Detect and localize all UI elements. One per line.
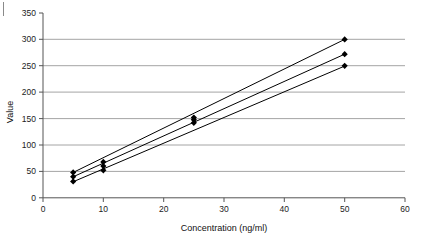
trendline-upper	[73, 39, 345, 172]
x-tick-label-40: 40	[280, 204, 290, 214]
y-tick-label-50: 50	[27, 166, 37, 176]
data-point-marker	[342, 36, 348, 42]
y-tick-label-200: 200	[22, 87, 36, 97]
y-tick-label-150: 150	[22, 114, 36, 124]
x-axis-ticks	[43, 198, 405, 202]
y-tick-label-100: 100	[22, 140, 36, 150]
y-tick-label-250: 250	[22, 61, 36, 71]
y-axis-title: Value	[5, 101, 15, 123]
series-upper	[70, 36, 348, 175]
y-tick-label-300: 300	[22, 34, 36, 44]
y-tick-label-350: 350	[22, 8, 36, 18]
x-tick-label-50: 50	[340, 204, 350, 214]
trendline-middle	[73, 54, 345, 177]
data-point-marker	[342, 63, 348, 69]
x-tick-label-20: 20	[159, 204, 169, 214]
chart-container: 350 300 250 200 150 100 50 0 0 10 20 30 …	[0, 0, 427, 242]
x-tick-label-30: 30	[219, 204, 229, 214]
chart-svg: 350 300 250 200 150 100 50 0 0 10 20 30 …	[0, 0, 427, 242]
x-tick-labels: 0 10 20 30 40 50 60	[41, 204, 410, 214]
y-tick-labels: 350 300 250 200 150 100 50 0	[22, 8, 36, 203]
trendline-lower	[73, 66, 345, 182]
data-series-layer	[70, 36, 348, 184]
series-lower	[70, 63, 348, 185]
x-axis-title: Concentration (ng/ml)	[181, 223, 268, 233]
series-middle	[70, 51, 348, 180]
x-tick-label-60: 60	[400, 204, 410, 214]
x-tick-label-0: 0	[41, 204, 46, 214]
data-point-marker	[191, 120, 197, 126]
gridlines	[43, 39, 405, 171]
axis-lines	[43, 13, 405, 198]
x-tick-label-10: 10	[99, 204, 109, 214]
data-point-marker	[342, 51, 348, 57]
scan-artifact-mark	[3, 2, 4, 16]
y-tick-label-0: 0	[31, 193, 36, 203]
y-axis-ticks	[39, 13, 43, 198]
data-point-marker	[70, 178, 76, 184]
